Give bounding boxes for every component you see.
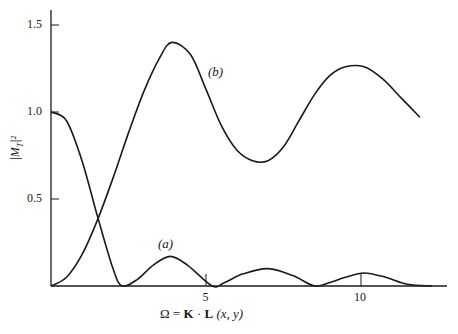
y-tick-label: 0.5 [27,191,42,206]
axes [51,10,447,286]
series [51,42,432,287]
y-tick-label: 1.5 [27,17,42,32]
y-label-sub: T [16,143,25,147]
x-label-k: K [184,306,194,321]
y-label-sup: |² [8,136,22,143]
series-line-a [51,112,432,287]
x-label-args: (x, y) [213,306,243,321]
y-label-main: |M [8,147,22,160]
ticks [51,25,361,286]
series-b-label: (b) [208,64,223,80]
series-a-label: (a) [158,236,173,252]
x-axis-label: Ω = K · L (x, y) [160,306,243,322]
x-tick-label: 10 [354,290,366,305]
x-label-omega: Ω = [160,306,184,321]
y-tick-label: 1.0 [27,104,42,119]
x-label-l: L [204,306,213,321]
y-axis-label: |MT|² [8,136,24,161]
x-label-dot: · [194,306,205,321]
x-tick-label: 5 [203,290,209,305]
chart-canvas [0,0,458,334]
